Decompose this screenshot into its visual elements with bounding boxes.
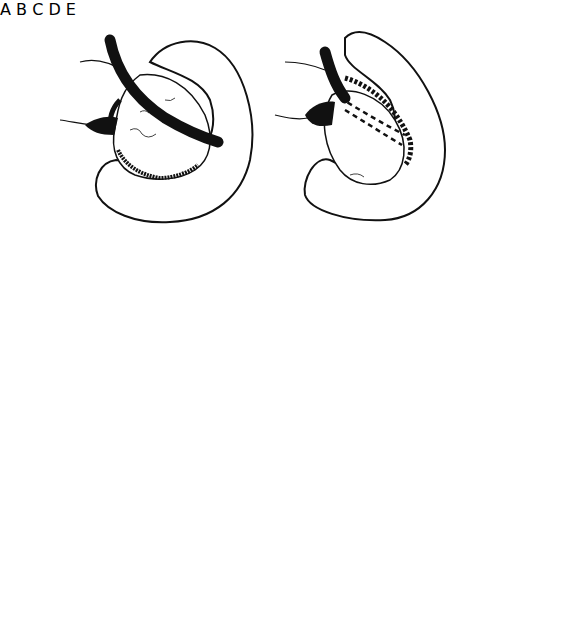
panel-a <box>60 40 252 222</box>
surgical-figure: A B C <box>0 0 584 618</box>
figure-drawing <box>0 0 584 618</box>
tube-b <box>325 52 345 98</box>
panel-b <box>275 32 445 220</box>
